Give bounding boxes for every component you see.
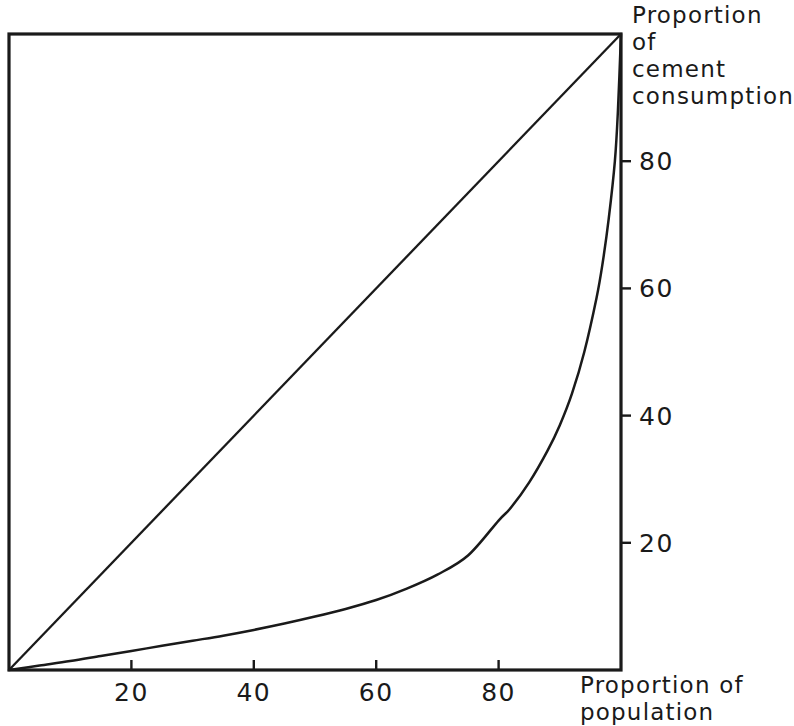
y-tick-label-40: 40 [639,403,674,428]
y-tick-label-60: 60 [639,276,674,301]
y-axis-title: Proportion of cement consumption [632,2,784,111]
line-of-equality [9,34,621,670]
x-tick-label-40: 40 [236,680,271,705]
x-tick-label-20: 20 [114,680,149,705]
x-tick-label-60: 60 [359,680,394,705]
y-tick-label-80: 80 [639,149,674,174]
x-tick-label-80: 80 [481,680,516,705]
y-tick-label-20: 20 [639,530,674,555]
x-axis-title: Proportion of population [580,672,784,726]
